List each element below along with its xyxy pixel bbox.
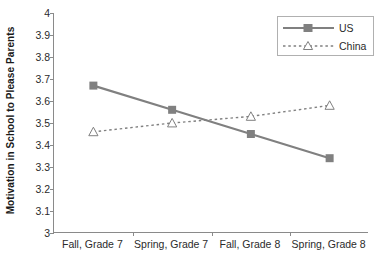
legend-glyph-china-line [281, 39, 336, 53]
y-tick-mark [50, 13, 54, 14]
x-axis-tick-labels: Fall, Grade 7Spring, Grade 7Fall, Grade … [53, 236, 368, 256]
series-line-us [93, 86, 329, 159]
x-tick-label: Spring, Grade 8 [292, 238, 366, 250]
chart-figure: Motivation in School to Please Parents 3… [0, 0, 381, 262]
legend-label-china: China [339, 40, 366, 52]
x-tick-label: Fall, Grade 7 [62, 238, 123, 250]
y-tick-mark [50, 123, 54, 124]
y-tick-mark [50, 167, 54, 168]
series-us [89, 82, 333, 163]
y-axis-title-container: Motivation in School to Please Parents [0, 0, 22, 240]
legend-entry-china: China [278, 37, 373, 55]
y-tick-mark [50, 35, 54, 36]
data-point-marker-triangle [168, 118, 177, 127]
data-point-marker-square [326, 154, 334, 162]
y-tick-mark [50, 101, 54, 102]
y-tick-label: 3.3 [35, 161, 50, 173]
legend-swatch-us [281, 21, 336, 35]
series-line-china [93, 105, 329, 131]
series-china [89, 101, 334, 136]
x-tick-label: Fall, Grade 8 [220, 238, 281, 250]
data-point-marker-square [168, 106, 176, 114]
y-tick-label: 3.1 [35, 205, 50, 217]
y-tick-label: 3.7 [35, 73, 50, 85]
y-tick-label: 3.4 [35, 139, 50, 151]
data-point-marker-square [89, 82, 97, 90]
y-tick-mark [50, 211, 54, 212]
legend: US China [277, 16, 374, 56]
data-point-marker-triangle [89, 127, 98, 136]
y-tick-mark [50, 145, 54, 146]
legend-swatch-china [281, 39, 336, 53]
y-axis-title: Motivation in School to Please Parents [6, 26, 17, 214]
legend-label-us: US [339, 22, 354, 34]
legend-entry-us: US [278, 19, 373, 37]
y-tick-mark [50, 79, 54, 80]
y-tick-label: 3.8 [35, 51, 50, 63]
y-tick-label: 3.2 [35, 183, 50, 195]
legend-glyph-us-line [281, 21, 336, 35]
y-tick-mark [50, 233, 54, 234]
x-tick-label: Spring, Grade 7 [134, 238, 208, 250]
data-point-marker-square [247, 130, 255, 138]
y-tick-mark [50, 189, 54, 190]
y-tick-label: 3.5 [35, 117, 50, 129]
y-tick-label: 3.6 [35, 95, 50, 107]
y-tick-label: 3.9 [35, 29, 50, 41]
y-tick-mark [50, 57, 54, 58]
data-point-marker-triangle [325, 101, 334, 110]
y-axis-tick-labels: 33.13.23.33.43.53.63.73.83.94 [20, 0, 50, 262]
